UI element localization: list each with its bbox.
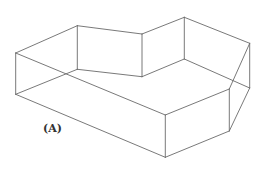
- top-edge: [165, 89, 229, 115]
- top-edge: [16, 53, 166, 115]
- bottom-edge: [165, 131, 229, 157]
- bottom-edge: [229, 88, 249, 131]
- bottom-edge: [142, 59, 184, 77]
- prism-edges: [16, 17, 250, 157]
- top-edge: [142, 17, 184, 34]
- top-edge: [184, 17, 249, 43]
- bottom-edge: [16, 94, 166, 157]
- figure-label: (A): [43, 123, 62, 134]
- bottom-edge: [184, 59, 249, 88]
- top-edge: [77, 26, 142, 34]
- top-edge: [229, 43, 249, 89]
- wireframe-prism-diagram: [0, 0, 265, 170]
- top-edge: [16, 26, 78, 53]
- bottom-edge: [77, 69, 142, 76]
- bottom-edge: [16, 69, 78, 94]
